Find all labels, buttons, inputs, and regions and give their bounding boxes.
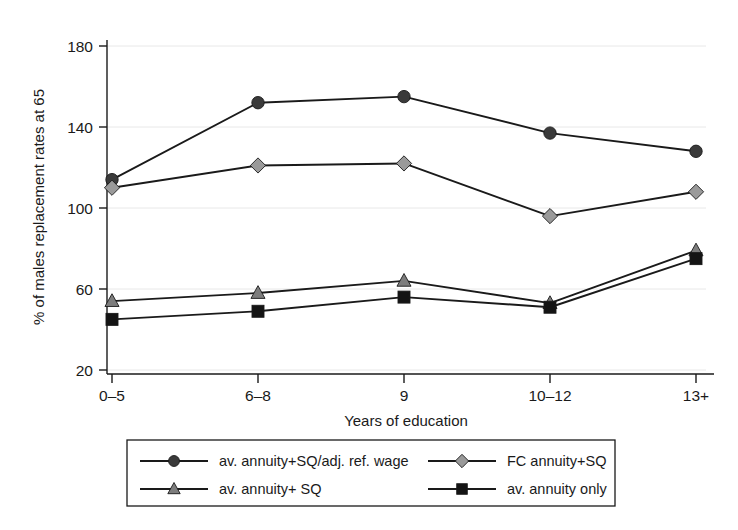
replacement-rates-line-chart: 180 140 100 60 20 0–5 6–8 9 10–12 13+ Ye…	[0, 0, 738, 530]
data-point-square-3	[544, 301, 556, 313]
data-point-square-0	[106, 313, 118, 325]
y-tick-label-140: 140	[67, 119, 93, 136]
x-tick-label-1: 6–8	[245, 387, 271, 404]
legend-marker-glyph-square	[457, 484, 468, 495]
x-tick-label-0: 0–5	[99, 387, 125, 404]
legend-marker-glyph-circle	[169, 456, 180, 467]
y-tick-label-180: 180	[67, 38, 93, 55]
y-tick-label-60: 60	[76, 281, 94, 298]
x-tick-label-2: 9	[400, 387, 409, 404]
data-point-circle-4	[690, 145, 702, 157]
legend-marker-circle	[169, 456, 180, 467]
legend-label-1: FC annuity+SQ	[507, 453, 607, 469]
x-tick-label-3: 10–12	[528, 387, 571, 404]
y-axis-title: % of males replacement rates at 65	[30, 89, 47, 325]
x-tick-label-4: 13+	[683, 387, 709, 404]
legend-label-0: av. annuity+SQ/adj. ref. wage	[219, 453, 409, 469]
data-point-square-4	[690, 253, 702, 265]
data-point-circle-3	[544, 127, 556, 139]
chart-background	[0, 0, 738, 530]
data-point-square-1	[252, 305, 264, 317]
x-axis-title: Years of education	[344, 412, 468, 429]
data-point-circle-1	[252, 97, 264, 109]
legend-label-3: av. annuity only	[507, 481, 607, 497]
y-tick-label-20: 20	[76, 362, 94, 379]
legend-marker-square	[457, 484, 468, 495]
data-point-square-2	[398, 291, 410, 303]
data-point-circle-2	[398, 90, 410, 102]
y-tick-label-100: 100	[67, 200, 93, 217]
legend-label-2: av. annuity+ SQ	[219, 481, 322, 497]
